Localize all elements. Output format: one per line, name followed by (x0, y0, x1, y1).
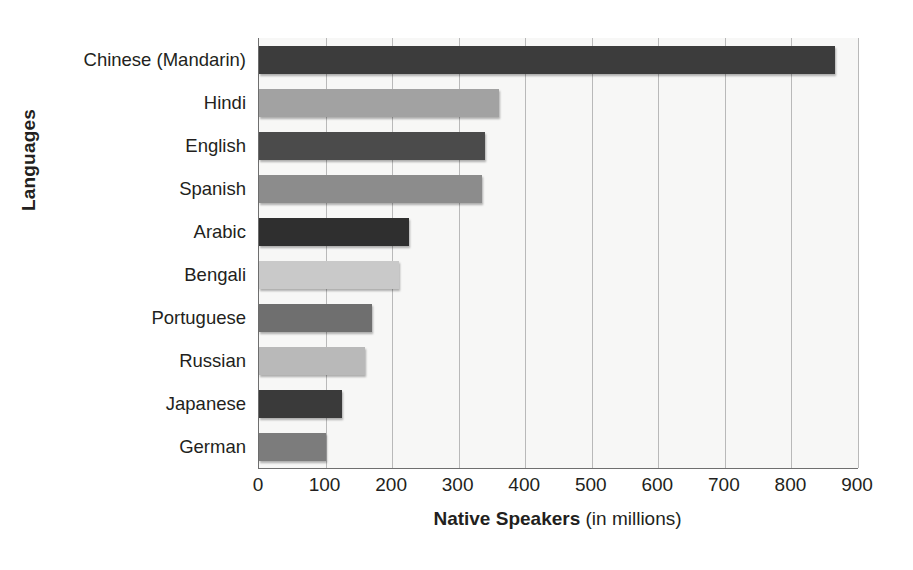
bar (259, 132, 485, 160)
x-axis-title-units: (in millions) (586, 508, 682, 529)
bar (259, 304, 372, 332)
bar (259, 390, 342, 418)
bar (259, 347, 365, 375)
x-axis-tick-labels: 0100200300400500600700800900 (258, 474, 857, 504)
category-label: Arabic (194, 218, 246, 246)
x-tick-label: 400 (489, 474, 559, 496)
bar-chart-figure: Languages Chinese (Mandarin)HindiEnglish… (0, 0, 913, 570)
category-label: Hindi (204, 89, 246, 117)
category-label: Bengali (184, 261, 246, 289)
x-tick-label: 300 (423, 474, 493, 496)
bar (259, 261, 399, 289)
bar (259, 433, 326, 461)
gridline (858, 38, 859, 468)
bar (259, 218, 409, 246)
x-tick-label: 200 (356, 474, 426, 496)
x-tick-label: 600 (622, 474, 692, 496)
bar (259, 46, 835, 74)
bar (259, 89, 499, 117)
x-axis-title: Native Speakers (in millions) (258, 508, 857, 530)
category-label: Spanish (179, 175, 246, 203)
category-label: Russian (179, 347, 246, 375)
category-label: Portuguese (151, 304, 246, 332)
x-tick-label: 800 (755, 474, 825, 496)
category-label: Japanese (166, 390, 246, 418)
bar (259, 175, 482, 203)
x-tick-label: 700 (689, 474, 759, 496)
x-tick-label: 100 (290, 474, 360, 496)
x-tick-label: 0 (223, 474, 293, 496)
plot-area (258, 38, 858, 469)
x-axis-title-bold: Native Speakers (433, 508, 585, 529)
x-tick-label: 900 (822, 474, 892, 496)
bar-series (259, 38, 858, 468)
category-label: English (185, 132, 246, 160)
category-label: Chinese (Mandarin) (84, 46, 246, 74)
category-axis-labels: Chinese (Mandarin)HindiEnglishSpanishAra… (30, 38, 252, 468)
x-tick-label: 500 (556, 474, 626, 496)
category-label: German (179, 433, 246, 461)
